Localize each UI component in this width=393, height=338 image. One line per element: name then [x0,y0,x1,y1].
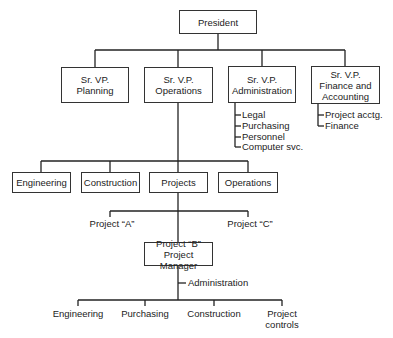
finance-item-project-acctg: Project acctg. [325,109,383,120]
dept-operations-box: Operations [218,172,278,193]
function-engineering: Engineering [53,308,104,319]
function-purchasing: Purchasing [121,308,169,319]
president-box: President [179,10,257,34]
dept-construction-box: Construction [81,172,140,193]
vp-planning-box: Sr. VP. Planning [61,67,129,103]
project-a-label: Project “A” [90,218,135,229]
dept-projects-box: Projects [149,172,208,193]
dept-engineering-box: Engineering [12,172,71,193]
admin-item-purchasing: Purchasing [242,120,290,131]
project-b-box: Project “B” Project Manager [144,242,213,266]
vp-operations-box: Sr. V.P. Operations [144,67,213,103]
admin-item-legal: Legal [242,109,265,120]
vp-finance-box: Sr. V.P. Finance and Accounting [311,66,380,104]
admin-item-computer-svc: Computer svc. [242,141,303,152]
finance-item-finance: Finance [325,120,359,131]
function-project-controls: Project controls [265,308,298,330]
project-b-administration: Administration [188,277,248,288]
function-construction: Construction [187,308,240,319]
vp-administration-box: Sr. V.P. Administration [228,66,296,103]
project-c-label: Project “C” [227,218,272,229]
